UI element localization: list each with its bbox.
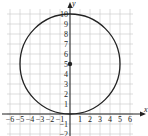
x-axis-label: x xyxy=(143,105,148,114)
x-tick-label: −4 xyxy=(26,115,35,124)
y-tick-label: 2 xyxy=(64,90,68,99)
y-tick-label: −1 xyxy=(59,120,68,129)
y-tick-label: 6 xyxy=(64,50,68,59)
y-tick-label: 8 xyxy=(64,30,68,39)
y-tick-label: 7 xyxy=(64,40,68,49)
x-tick-label: 6 xyxy=(128,115,132,124)
tick-labels: −6−5−4−3−2−1123456−2−112345678910 xyxy=(6,10,132,136)
circle-graph: xy −6−5−4−3−2−1123456−2−112345678910 xyxy=(0,0,148,136)
y-axis-label: y xyxy=(71,0,76,8)
x-tick-label: 3 xyxy=(98,115,102,124)
x-tick-label: 2 xyxy=(88,115,92,124)
x-tick-label: 5 xyxy=(118,115,122,124)
center-point xyxy=(68,62,72,66)
y-tick-label: 1 xyxy=(64,100,68,109)
y-tick-label: 9 xyxy=(64,20,68,29)
y-tick-label: 3 xyxy=(64,80,68,89)
x-tick-label: 1 xyxy=(78,115,82,124)
y-tick-label: 5 xyxy=(64,60,68,69)
x-tick-label: 4 xyxy=(108,115,112,124)
x-tick-label: −2 xyxy=(46,115,55,124)
x-tick-label: −5 xyxy=(16,115,25,124)
y-tick-label: −2 xyxy=(59,130,68,136)
x-tick-label: −3 xyxy=(36,115,45,124)
x-tick-label: −6 xyxy=(6,115,15,124)
y-tick-label: 4 xyxy=(64,70,68,79)
